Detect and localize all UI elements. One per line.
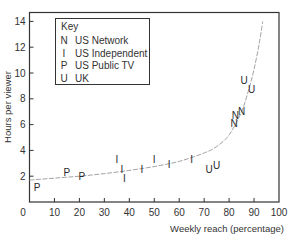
y-axis: 2468101214 — [14, 16, 33, 182]
marker-I: I — [153, 154, 156, 165]
legend-symbol: N — [60, 35, 67, 46]
legend-symbol: I — [63, 48, 66, 59]
y-tick-label: 14 — [14, 16, 26, 27]
x-tick-label: 100 — [271, 207, 288, 218]
marker-U: U — [240, 75, 247, 86]
y-axis-title: Hours per viewer — [2, 71, 13, 143]
x-axis-title: Weekly reach (percentage) — [170, 223, 284, 234]
marker-I: I — [123, 173, 126, 184]
legend: Key NUS NetworkIUS IndependentPUS Public… — [56, 19, 150, 85]
marker-N: N — [238, 106, 245, 117]
legend-symbol: P — [61, 60, 68, 71]
legend-title: Key — [61, 21, 78, 32]
y-tick-label: 12 — [14, 42, 26, 53]
data-markers: NNNIIIIIIIPPPUUUU — [34, 75, 256, 193]
x-tick-label: 90 — [248, 207, 260, 218]
marker-U: U — [206, 164, 213, 175]
y-tick-label: 2 — [20, 171, 26, 182]
x-tick-label: 70 — [199, 207, 211, 218]
x-tick-label: 20 — [74, 207, 86, 218]
marker-U: U — [248, 84, 255, 95]
marker-P: P — [34, 182, 41, 193]
y-tick-label: 4 — [20, 145, 26, 156]
legend-label: US Public TV — [75, 60, 135, 71]
marker-I: I — [190, 154, 193, 165]
x-axis: 0102030405060708090100 — [20, 198, 288, 218]
x-tick-label: 40 — [124, 207, 136, 218]
marker-I: I — [168, 159, 171, 170]
marker-U: U — [213, 160, 220, 171]
x-tick-label: 50 — [149, 207, 161, 218]
x-tick-label: 10 — [49, 207, 61, 218]
marker-I: I — [115, 154, 118, 165]
x-tick-label: 0 — [20, 207, 26, 218]
x-tick-label: 30 — [99, 207, 111, 218]
y-tick-label: 8 — [20, 93, 26, 104]
x-tick-label: 60 — [174, 207, 186, 218]
legend-label: UK — [75, 73, 89, 84]
marker-P: P — [64, 167, 71, 178]
legend-label: US Network — [75, 35, 129, 46]
marker-P: P — [79, 171, 86, 182]
y-tick-label: 6 — [20, 119, 26, 130]
y-tick-label: 10 — [14, 68, 26, 79]
x-tick-label: 80 — [224, 207, 236, 218]
legend-symbol: U — [60, 73, 67, 84]
marker-I: I — [140, 164, 143, 175]
legend-label: US Independent — [75, 48, 148, 59]
chart: 2468101214 0102030405060708090100 NNNIII… — [0, 0, 291, 241]
